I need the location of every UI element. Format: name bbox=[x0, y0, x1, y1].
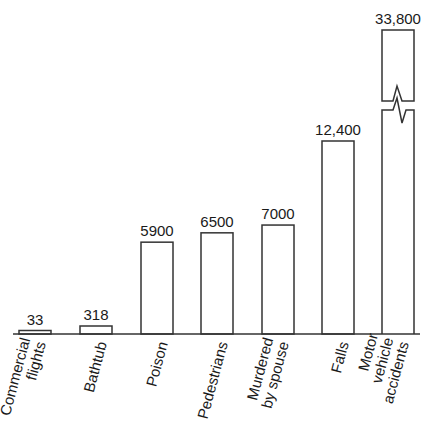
bar-chart: 3331859006500700012,40033,800 Commercial… bbox=[0, 0, 432, 442]
value-label-commercial-flights: 33 bbox=[27, 311, 44, 328]
bar-falls bbox=[322, 141, 354, 334]
value-label-murdered-by-spouse: 7000 bbox=[261, 205, 294, 222]
category-labels: CommercialflightsBathtubPoisonPedestrian… bbox=[0, 331, 412, 420]
svg-text:Bathtub: Bathtub bbox=[80, 340, 110, 394]
value-label-poison: 5900 bbox=[140, 222, 173, 239]
value-label-falls: 12,400 bbox=[315, 121, 361, 138]
bar-pedestrians bbox=[201, 233, 233, 334]
category-label-poison: Poison bbox=[142, 340, 170, 389]
category-label-motor-vehicle-accidents: Motorvehicleaccidents bbox=[354, 331, 411, 405]
svg-text:Poison: Poison bbox=[142, 340, 170, 389]
bar-motor-vehicle-accidents bbox=[382, 30, 414, 334]
svg-text:Falls: Falls bbox=[327, 340, 352, 375]
bar-murdered-by-spouse bbox=[262, 225, 294, 334]
value-label-pedestrians: 6500 bbox=[200, 213, 233, 230]
value-label-motor-vehicle-accidents: 33,800 bbox=[375, 10, 421, 27]
value-label-bathtub: 318 bbox=[83, 306, 108, 323]
category-label-commercial-flights: Commercialflights bbox=[0, 336, 49, 418]
bar-bathtub bbox=[80, 326, 112, 334]
category-label-murdered-by-spouse: Murderedby spouse bbox=[243, 336, 291, 411]
category-label-falls: Falls bbox=[327, 340, 352, 375]
svg-text:Pedestrians: Pedestrians bbox=[194, 340, 231, 421]
bar-poison bbox=[141, 242, 173, 334]
bars-group: 3331859006500700012,40033,800 bbox=[19, 10, 421, 334]
category-label-pedestrians: Pedestrians bbox=[194, 340, 231, 421]
category-label-bathtub: Bathtub bbox=[80, 340, 110, 394]
